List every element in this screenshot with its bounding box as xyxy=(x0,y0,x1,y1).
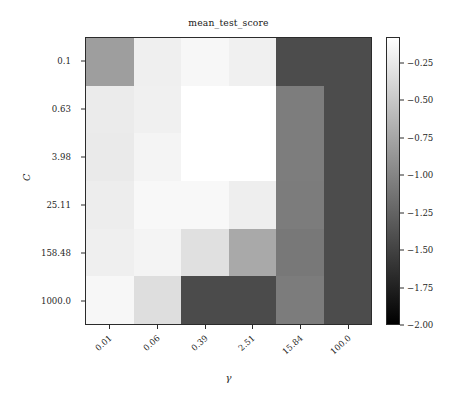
heatmap-cell xyxy=(324,38,372,86)
heatmap-cell xyxy=(324,133,372,181)
heatmap-cell xyxy=(276,133,324,181)
heatmap-cell xyxy=(276,276,324,324)
heatmap-plot-area xyxy=(85,37,372,325)
heatmap-cell xyxy=(134,276,182,324)
colorbar-tick-mark xyxy=(400,175,404,176)
colorbar-tick-mark xyxy=(400,62,404,63)
y-tick-mark xyxy=(81,205,85,206)
colorbar-tick-mark xyxy=(400,325,404,326)
heatmap-cell xyxy=(324,181,372,229)
heatmap-cell xyxy=(134,38,182,86)
y-tick-mark xyxy=(81,61,85,62)
colorbar-tick-mark xyxy=(400,212,404,213)
colorbar-tick-label: −1.00 xyxy=(407,170,433,180)
y-axis-ticks: 0.10.633.9825.11158.481000.0 xyxy=(0,37,79,325)
colorbar xyxy=(386,37,400,325)
heatmap-cell xyxy=(86,181,134,229)
heatmap-cell-grid xyxy=(86,38,371,324)
page-title: mean_test_score xyxy=(85,17,372,28)
x-axis-ticks: 0.010.060.392.5115.84100.0 xyxy=(85,325,372,375)
colorbar-tick-mark xyxy=(400,100,404,101)
y-tick-label: 3.98 xyxy=(52,152,71,162)
heatmap-cell xyxy=(324,229,372,277)
colorbar-tick-label: −1.25 xyxy=(407,208,433,218)
x-tick-mark xyxy=(252,325,253,329)
heatmap-cell xyxy=(86,133,134,181)
y-tick-label: 0.1 xyxy=(57,56,71,66)
heatmap-cell xyxy=(134,133,182,181)
colorbar-tick-label: −1.50 xyxy=(407,245,433,255)
colorbar-tick-mark xyxy=(400,287,404,288)
heatmap-cell xyxy=(86,276,134,324)
heatmap-cell xyxy=(276,229,324,277)
heatmap-cell xyxy=(86,86,134,134)
colorbar-gradient xyxy=(387,38,399,324)
heatmap-cell xyxy=(181,276,229,324)
y-tick-mark xyxy=(81,301,85,302)
x-tick-mark xyxy=(348,325,349,329)
heatmap-cell xyxy=(276,38,324,86)
colorbar-tick-label: −1.75 xyxy=(407,283,433,293)
colorbar-tick-mark xyxy=(400,250,404,251)
colorbar-tick-label: −2.00 xyxy=(407,320,433,330)
heatmap-cell xyxy=(229,38,277,86)
heatmap-cell xyxy=(229,276,277,324)
heatmap-cell xyxy=(181,86,229,134)
heatmap-cell xyxy=(276,86,324,134)
x-tick-mark xyxy=(157,325,158,329)
x-tick-mark xyxy=(205,325,206,329)
heatmap-cell xyxy=(181,181,229,229)
y-axis-label: C xyxy=(21,174,32,181)
heatmap-cell xyxy=(86,229,134,277)
heatmap-cell xyxy=(229,133,277,181)
y-tick-mark xyxy=(81,157,85,158)
y-tick-mark xyxy=(81,109,85,110)
y-tick-label: 158.48 xyxy=(41,248,71,258)
y-tick-mark xyxy=(81,253,85,254)
y-tick-label: 25.11 xyxy=(46,200,71,210)
x-tick-mark xyxy=(300,325,301,329)
x-tick-mark xyxy=(109,325,110,329)
heatmap-cell xyxy=(276,181,324,229)
colorbar-tick-label: −0.25 xyxy=(407,58,433,68)
colorbar-tick-label: −0.75 xyxy=(407,133,433,143)
heatmap-cell xyxy=(181,229,229,277)
y-tick-label: 0.63 xyxy=(52,104,71,114)
heatmap-cell xyxy=(181,133,229,181)
heatmap-cell xyxy=(134,86,182,134)
heatmap-cell xyxy=(324,276,372,324)
heatmap-cell xyxy=(134,181,182,229)
heatmap-cell xyxy=(86,38,134,86)
heatmap-cell xyxy=(229,181,277,229)
heatmap-cell xyxy=(134,229,182,277)
colorbar-tick-label: −0.50 xyxy=(407,95,433,105)
x-axis-label: γ xyxy=(85,372,372,383)
y-tick-label: 1000.0 xyxy=(41,296,71,306)
heatmap-cell xyxy=(324,86,372,134)
colorbar-ticks: −0.25−0.50−0.75−1.00−1.25−1.50−1.75−2.00 xyxy=(400,37,452,325)
heatmap-cell xyxy=(229,86,277,134)
colorbar-tick-mark xyxy=(400,137,404,138)
heatmap-cell xyxy=(229,229,277,277)
heatmap-cell xyxy=(181,38,229,86)
matplotlib-figure: mean_test_score 0.10.633.9825.11158.4810… xyxy=(0,0,453,400)
